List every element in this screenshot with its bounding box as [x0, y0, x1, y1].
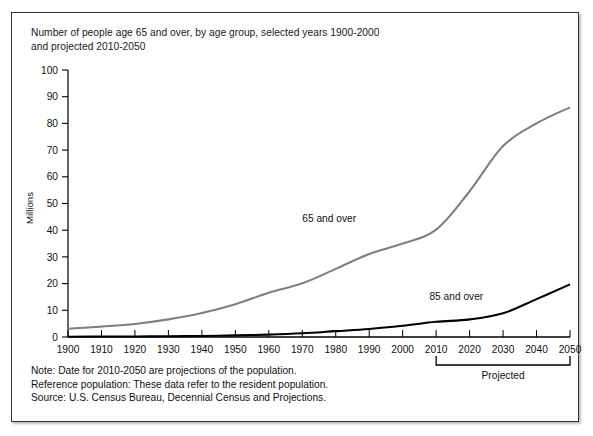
- y-tick-label: 90: [47, 91, 59, 102]
- x-tick-label: 1980: [324, 344, 347, 355]
- y-tick-label: 10: [47, 305, 59, 316]
- x-tick-label: 2050: [559, 344, 582, 355]
- series-annotation-85-and-over: 85 and over: [429, 291, 483, 302]
- x-tick-label: 1950: [224, 344, 247, 355]
- y-tick-label: 70: [47, 145, 59, 156]
- series-annotation-65-and-over: 65 and over: [302, 213, 356, 224]
- y-tick-label: 100: [41, 65, 58, 76]
- x-tick-label: 2000: [391, 344, 414, 355]
- x-tick-label: 2020: [458, 344, 481, 355]
- y-tick-label: 40: [47, 225, 59, 236]
- note-line-2: Reference population: These data refer t…: [31, 378, 451, 392]
- x-tick-label: 1920: [124, 344, 147, 355]
- x-tick-label: 2010: [425, 344, 448, 355]
- x-tick-label: 1970: [291, 344, 314, 355]
- x-tick-label: 1900: [57, 344, 80, 355]
- x-tick-label: 1990: [358, 344, 381, 355]
- y-tick-label: 50: [47, 198, 59, 209]
- figure-notes: Note: Date for 2010-2050 are projections…: [31, 364, 451, 405]
- figure-container: Number of people age 65 and over, by age…: [0, 0, 593, 436]
- note-line-3: Source: U.S. Census Bureau, Decennial Ce…: [31, 391, 451, 405]
- y-tick-label: 80: [47, 118, 59, 129]
- x-tick-label: 1930: [157, 344, 180, 355]
- x-tick-label: 2030: [492, 344, 515, 355]
- y-tick-label: 0: [52, 332, 58, 343]
- x-axis-ticks: 1900191019201930194019501960197019801990…: [57, 330, 582, 355]
- x-tick-label: 1910: [90, 344, 113, 355]
- series-line-85-and-over: [68, 284, 570, 336]
- x-tick-label: 2040: [525, 344, 548, 355]
- note-line-1: Note: Date for 2010-2050 are projections…: [31, 364, 451, 378]
- y-axis-title: Millions: [24, 192, 35, 224]
- x-tick-label: 1940: [191, 344, 214, 355]
- y-tick-label: 30: [47, 252, 59, 263]
- x-tick-label: 1960: [257, 344, 280, 355]
- y-axis-ticks: 0102030405060708090100: [41, 65, 68, 343]
- projected-bracket: [436, 356, 570, 365]
- projected-label: Projected: [482, 370, 525, 381]
- y-tick-label: 20: [47, 278, 59, 289]
- y-tick-label: 60: [47, 171, 59, 182]
